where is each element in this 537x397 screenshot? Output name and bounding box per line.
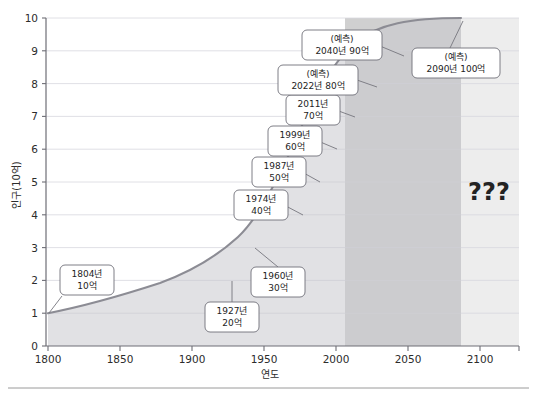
callout-2011-line2: 70억	[303, 110, 322, 121]
callout-2011[interactable]: 2011년 70억	[286, 95, 340, 125]
y-tick-label-10: 10	[25, 12, 38, 24]
callout-1974[interactable]: 1974년 40억	[234, 190, 288, 220]
callout-1804-line1: 1804년	[72, 269, 103, 279]
callout-2090-line2: 2090년 100억	[427, 63, 486, 74]
callout-1804-line2: 10억	[77, 280, 96, 291]
y-tick-label-1: 1	[31, 307, 38, 319]
y-tick-labels: 10 9 8 7 6 5 4 3 2 1 0	[25, 12, 39, 352]
callout-1974-line2: 40억	[251, 205, 270, 216]
y-tick-label-5: 5	[31, 176, 38, 188]
callout-2040-line2: 2040년 90억	[315, 45, 368, 56]
callout-2090-line1: (예측)	[444, 52, 467, 62]
x-tick-label-1850: 1850	[107, 353, 134, 365]
callout-1987-line1: 1987년	[264, 161, 295, 171]
y-tick-label-4: 4	[31, 209, 38, 221]
callout-2022[interactable]: (예측) 2022년 80억	[278, 65, 358, 95]
y-tick-label-2: 2	[31, 274, 38, 286]
future-unknown-marker: ???	[468, 178, 510, 206]
population-growth-figure: 10 9 8 7 6 5 4 3 2 1 0 1800 1850 1900 19…	[0, 0, 537, 397]
y-tick-label-9: 9	[31, 45, 38, 57]
x-tick-label-1950: 1950	[251, 353, 278, 365]
x-tick-labels: 1800 1850 1900 1950 2000 2050 2100	[35, 353, 494, 365]
callout-2022-line2: 2022년 80억	[291, 80, 344, 91]
world-population-chart: 10 9 8 7 6 5 4 3 2 1 0 1800 1850 1900 19…	[0, 0, 537, 397]
callout-1999-line2: 60억	[285, 141, 304, 152]
callout-2011-line1: 2011년	[298, 99, 329, 109]
callout-2040-line1: (예측)	[330, 34, 353, 44]
callout-1927-line2: 20억	[222, 317, 241, 328]
y-tick-label-3: 3	[31, 242, 38, 254]
x-tick-label-1800: 1800	[35, 353, 62, 365]
callout-1987[interactable]: 1987년 50억	[252, 157, 306, 187]
callout-1960[interactable]: 1960년 30억	[251, 267, 305, 297]
callout-1974-line1: 1974년	[246, 194, 277, 204]
callout-1960-line2: 30억	[268, 282, 287, 293]
y-tick-label-7: 7	[31, 110, 38, 122]
y-tick-label-8: 8	[31, 78, 38, 90]
x-tick-label-2000: 2000	[323, 353, 350, 365]
callout-1987-line2: 50억	[269, 172, 288, 183]
callout-1960-line1: 1960년	[263, 271, 294, 281]
callout-1804[interactable]: 1804년 10억	[60, 265, 114, 295]
y-axis-title: 인구(10억)	[11, 161, 22, 209]
x-axis-title: 연도	[261, 369, 279, 380]
callout-2090[interactable]: (예측) 2090년 100억	[412, 48, 500, 78]
callout-1927-line1: 1927년	[217, 306, 248, 316]
callout-1927[interactable]: 1927년 20억	[205, 302, 259, 332]
y-tick-label-6: 6	[31, 143, 38, 155]
y-tick-label-0: 0	[31, 340, 38, 352]
callout-2040[interactable]: (예측) 2040년 90억	[302, 30, 382, 60]
x-tick-label-1900: 1900	[179, 353, 206, 365]
callout-1999-line1: 1999년	[280, 130, 311, 140]
callout-2022-line1: (예측)	[306, 69, 329, 79]
x-tick-label-2050: 2050	[395, 353, 422, 365]
x-tick-label-2100: 2100	[467, 353, 494, 365]
callout-1999[interactable]: 1999년 60억	[268, 126, 322, 156]
